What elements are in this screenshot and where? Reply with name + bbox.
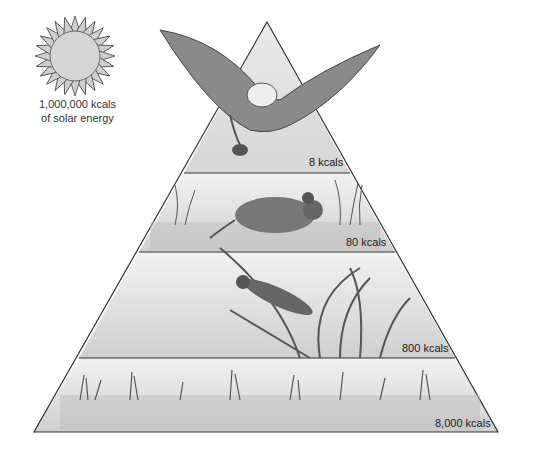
tier-2-label: 80 kcals [346, 236, 386, 248]
solar-energy-caption: of solar energy [20, 111, 135, 125]
tier-1-label: 8 kcals [309, 156, 343, 168]
tier-3 [79, 252, 455, 358]
tier-4-label: 8,000 kcals [435, 417, 491, 429]
tier-3-label: 800 kcals [402, 342, 448, 354]
energy-pyramid [0, 0, 533, 455]
sun-icon [35, 16, 115, 96]
solar-energy-label: 1,000,000 kcals of solar energy [20, 97, 135, 125]
solar-energy-value: 1,000,000 kcals [20, 97, 135, 111]
